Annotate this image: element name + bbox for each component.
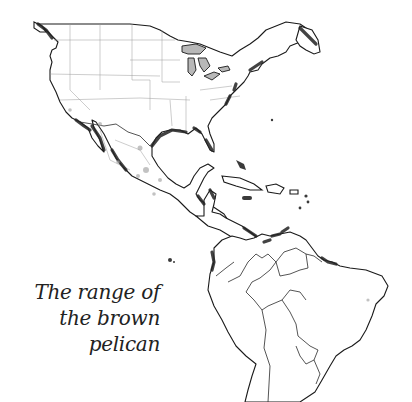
- map-caption: The range of the brown pelican: [34, 279, 160, 357]
- caption-line-1: The range of: [34, 279, 160, 305]
- south-america: [208, 232, 388, 402]
- north-america: [34, 22, 320, 232]
- caption-line-2: the brown: [34, 305, 160, 331]
- caption-line-3: pelican: [34, 331, 160, 357]
